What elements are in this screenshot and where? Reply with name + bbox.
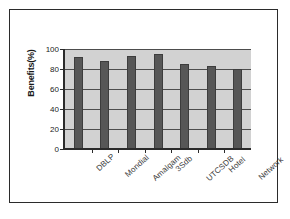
y-tick-mark bbox=[60, 69, 65, 70]
y-tick-mark bbox=[60, 49, 65, 50]
y-tick-mark bbox=[60, 129, 65, 130]
bar-chart: Benefits(%) 020406080100 DBLPMondialAmal… bbox=[10, 10, 277, 202]
x-axis-category-label: Mondial bbox=[123, 153, 150, 179]
gridline bbox=[65, 49, 251, 50]
plot-area: 020406080100 bbox=[63, 49, 251, 149]
x-axis-category-label: DBLP bbox=[95, 152, 117, 173]
bar bbox=[233, 69, 242, 149]
bar bbox=[180, 64, 189, 149]
y-tick-label: 80 bbox=[37, 65, 59, 74]
y-tick-label: 20 bbox=[37, 125, 59, 134]
y-axis-title: Benefits(%) bbox=[24, 28, 38, 118]
y-tick-label: 40 bbox=[37, 105, 59, 114]
y-tick-label: 60 bbox=[37, 85, 59, 94]
bar bbox=[127, 56, 136, 149]
y-tick-label: 0 bbox=[37, 145, 59, 154]
y-tick-label: 100 bbox=[37, 45, 59, 54]
figure-frame: Benefits(%) 020406080100 DBLPMondialAmal… bbox=[9, 9, 278, 203]
x-axis-line bbox=[63, 148, 251, 150]
x-axis-category-label: Network bbox=[256, 155, 284, 182]
bar bbox=[100, 61, 109, 149]
y-tick-mark bbox=[60, 89, 65, 90]
bar bbox=[74, 57, 83, 149]
x-axis-labels: DBLPMondialAmalgam3SdbUTCSDBHotelNetwork bbox=[63, 152, 249, 202]
bar bbox=[154, 54, 163, 149]
y-tick-mark bbox=[60, 109, 65, 110]
bar bbox=[207, 66, 216, 149]
